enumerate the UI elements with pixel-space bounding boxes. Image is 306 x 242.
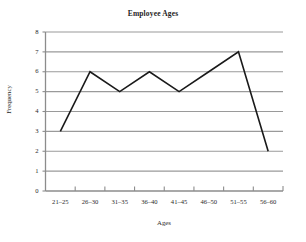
gridlines (46, 32, 284, 171)
y-tick-label: 7 (25, 48, 39, 55)
x-tick-label: 56–60 (248, 198, 288, 205)
y-tick-label: 6 (25, 67, 39, 74)
y-tick-label: 3 (25, 127, 39, 134)
y-axis-title: Frequency (5, 70, 12, 130)
plot-area (0, 0, 306, 242)
x-axis-title: Ages (45, 219, 283, 226)
y-tick-label: 1 (25, 167, 39, 174)
y-tick-label: 5 (25, 87, 39, 94)
chart-container: Employee Ages 012345678 21–2526–3031–353… (0, 0, 306, 242)
y-tick-label: 2 (25, 147, 39, 154)
y-tick-label: 0 (25, 187, 39, 194)
x-axis-ticks (75, 187, 253, 192)
data-line-series (60, 52, 268, 151)
y-tick-label: 4 (25, 107, 39, 114)
y-tick-label: 8 (25, 28, 39, 35)
